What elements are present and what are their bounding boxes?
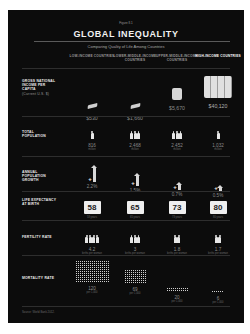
children-icon [173,229,180,246]
people-icon [90,125,94,142]
people-icon [130,125,141,142]
population-low: 816 million [69,125,115,151]
page-title: GLOBAL INEQUALITY [8,29,244,39]
plus-icon: + [88,176,92,182]
population-lower-middle: 2,468 million [112,125,158,151]
gni-upper-middle: $5,670 [154,86,200,111]
life-upper-middle: 73 73 years [154,196,200,219]
children-icon [214,229,221,246]
money-icon [87,103,97,109]
money-stack-large-icon [204,76,232,98]
fertility-lower-middle: 3 births per woman [112,229,158,255]
people-icon [172,125,183,142]
plus-icon: + [131,180,135,186]
calendar-icon: 80 [210,201,227,214]
growth-upper-middle: + 0.7% [154,172,200,197]
row-divider [22,306,230,307]
children-icon [85,229,99,246]
life-high: 80 80 years [195,196,241,219]
infographic-panel: Figure 8.1 GLOBAL INEQUALITY Comparing Q… [8,10,244,323]
row-label-gni: GROSS NATIONAL INCOME PER CAPITA (Curren… [22,79,58,96]
row-label-population: TOTAL POPULATION [22,130,58,138]
gni-high: $40,120 [195,76,241,109]
row-divider [22,220,230,221]
money-stack-icon [172,88,182,100]
row-label-life-expectancy: LIFE EXPECTANCY AT BIRTH [22,198,58,206]
calendar-icon: 65 [127,201,144,214]
fertility-low: 4.2 births per woman [69,229,115,255]
mortality-dot-grid [167,287,188,291]
growth-lower-middle: + 1.5% [112,168,158,193]
column-header-high: HIGH-INCOME COUNTRIES [195,54,241,58]
money-icon [130,103,140,109]
mortality-upper-middle: 20 per 1,000 [154,277,200,303]
children-icon [130,229,141,246]
mortality-lower-middle: 69 per 1,000 [112,269,158,295]
arrow-up-icon [178,185,181,190]
calendar-icon: 58 [84,201,101,214]
row-divider [22,191,230,192]
life-lower-middle: 65 65 years [112,196,158,219]
mortality-low: 120 per 1,000 [69,260,115,294]
column-header-lower-middle: LOWER-MIDDLE-INCOME COUNTRIES [112,54,158,62]
row-divider [22,255,230,256]
column-header-low: LOW-INCOME COUNTRIES [69,54,115,58]
growth-low: + 2.2% [69,164,115,189]
fertility-upper-middle: 1.8 births per woman [154,229,200,255]
source-note: Source: World Bank 2012. [22,310,55,314]
mortality-dot-grid [212,290,224,292]
row-divider [22,156,230,157]
row-label-fertility: FERTILITY RATE [22,235,58,239]
calendar-icon: 73 [169,201,186,214]
column-header-upper-middle: UPPER-MIDDLE-INCOME COUNTRIES [154,54,200,62]
mortality-high: 6 per 1,000 [195,278,241,304]
row-label-mortality: MORTALITY RATE [22,276,58,280]
subtitle: Comparing Quality of Life Among Countrie… [8,44,244,49]
row-label-growth: ANNUAL POPULATION GROWTH [22,170,58,183]
people-icon [216,125,220,142]
figure-label: Figure 8.1 [8,21,244,25]
title-divider [34,41,230,42]
population-upper-middle: 2,452 million [154,125,200,151]
mortality-dot-grid [76,260,109,282]
population-high: 1,032 million [195,125,241,151]
life-low: 58 58 years [69,196,115,219]
mortality-dot-grid [125,270,146,283]
arrow-up-icon [93,168,96,182]
row-divider [22,116,230,117]
fertility-high: 1.7 births per woman [195,229,241,255]
arrow-up-icon [136,176,139,186]
growth-high: + 0.5% [195,173,241,198]
header-divider [22,68,230,69]
